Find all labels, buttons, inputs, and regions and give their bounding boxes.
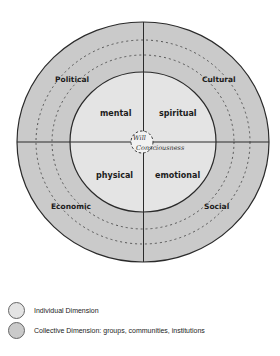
legend-item-collective: Collective Dimension: groups, communitie… <box>8 320 278 340</box>
legend-item-individual: Individual Dimension <box>8 300 278 320</box>
legend-label: Individual Dimension <box>34 307 99 314</box>
collective-swatch-icon <box>8 322 25 339</box>
legend-label: Collective Dimension: groups, communitie… <box>34 327 205 334</box>
label-will: Will <box>133 134 146 142</box>
label-social: Social <box>204 202 229 211</box>
label-economic: Economic <box>51 202 91 211</box>
label-consciousness: Consciousness <box>136 144 185 152</box>
label-political: Political <box>55 75 89 84</box>
legend: Individual Dimension Collective Dimensio… <box>8 300 278 340</box>
dimensions-diagram: Political Cultural Economic Social menta… <box>0 0 280 280</box>
label-emotional: emotional <box>155 171 200 180</box>
label-physical: physical <box>96 171 133 180</box>
individual-swatch-icon <box>8 302 25 319</box>
label-mental: mental <box>100 109 132 118</box>
label-cultural: Cultural <box>202 75 236 84</box>
label-spiritual: spiritual <box>159 109 197 118</box>
